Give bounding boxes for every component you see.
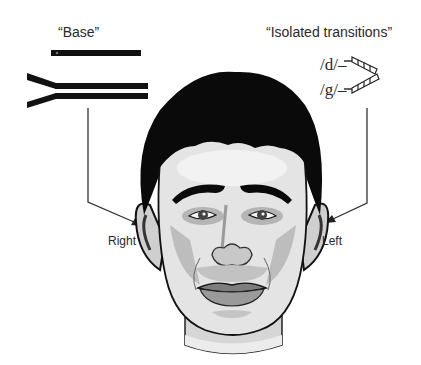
isolated-transitions-title: “Isolated transitions” — [266, 24, 392, 40]
phoneme-d-label: /d/– — [320, 55, 346, 75]
left-ear-label: Left — [322, 234, 342, 248]
right-ear-routing-arrow — [88, 108, 134, 222]
face-illustration — [136, 72, 328, 354]
phoneme-g-label: /g/– — [320, 80, 346, 100]
dichotic-listening-diagram: “Base” “Isolated transitions” /d/– /g/– … — [0, 0, 421, 365]
base-stimulus-icon — [27, 50, 148, 108]
left-ear-routing-arrow — [333, 108, 367, 219]
base-title: “Base” — [58, 24, 99, 40]
isolated-transitions-icon — [344, 57, 379, 93]
right-ear-label: Right — [108, 234, 136, 248]
